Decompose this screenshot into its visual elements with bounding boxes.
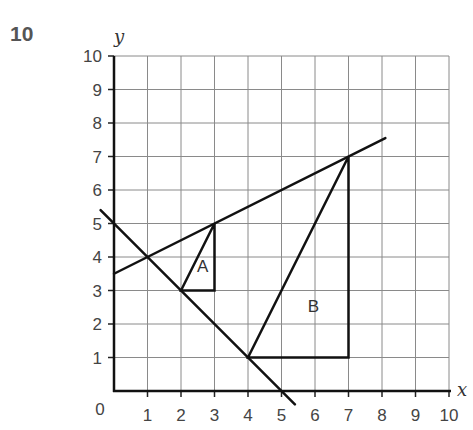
triangle-label-b: B (308, 297, 319, 316)
x-tick-label: 10 (440, 406, 459, 425)
y-tick-label: 9 (93, 81, 102, 100)
x-tick-label: 7 (344, 406, 353, 425)
y-tick-label: 5 (93, 215, 102, 234)
y-tick-label: 3 (93, 282, 102, 301)
x-tick-label: 8 (377, 406, 386, 425)
x-tick-label: 4 (243, 406, 252, 425)
y-tick-label: 2 (93, 315, 102, 334)
y-tick-label: 1 (93, 349, 102, 368)
x-tick-label: 9 (411, 406, 420, 425)
x-tick-label: 6 (310, 406, 319, 425)
line-2 (101, 210, 295, 404)
line-1 (114, 138, 385, 274)
x-tick-label: 3 (210, 406, 219, 425)
y-axis-label: y (113, 26, 125, 47)
coordinate-grid-chart: 12345678910123456789100xyAB (0, 0, 473, 430)
origin-label: 0 (95, 400, 104, 419)
x-tick-label: 1 (143, 406, 152, 425)
y-tick-label: 10 (83, 47, 102, 66)
x-axis-label: x (457, 379, 467, 400)
x-tick-label: 2 (176, 406, 185, 425)
triangle-label-a: A (197, 257, 209, 276)
y-tick-label: 7 (93, 148, 102, 167)
y-tick-label: 8 (93, 114, 102, 133)
x-tick-label: 5 (277, 406, 286, 425)
y-tick-label: 6 (93, 181, 102, 200)
y-tick-label: 4 (93, 248, 102, 267)
